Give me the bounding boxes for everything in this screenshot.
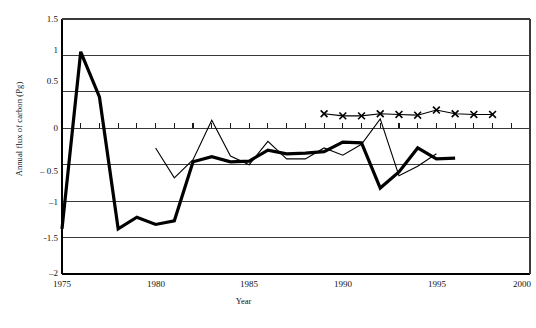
gridlines <box>62 19 530 274</box>
x-axis-tick-labels: 1975 1980 1985 1990 1995 2000 <box>0 279 531 295</box>
series-x-marker-line <box>321 107 496 120</box>
series-thick-line <box>62 52 455 229</box>
series-line <box>156 119 437 178</box>
series-thin-line <box>156 119 437 178</box>
data-series-layer <box>62 52 496 229</box>
x-axis-title: Year <box>0 296 531 306</box>
x-axis-title-text: Year <box>236 296 252 306</box>
x-tick-label: 1995 <box>414 279 460 289</box>
plot-frame <box>62 19 530 274</box>
series-line <box>62 52 455 229</box>
x-minor-ticks <box>81 123 512 128</box>
x-tick-label: 2000 <box>499 279 536 289</box>
x-tick-label: 1990 <box>320 279 366 289</box>
x-tick-label: 1985 <box>226 279 272 289</box>
figure-caption <box>6 320 525 328</box>
x-tick-label: 1980 <box>133 279 179 289</box>
x-tick-label: 1975 <box>39 279 85 289</box>
series-line <box>324 110 492 116</box>
